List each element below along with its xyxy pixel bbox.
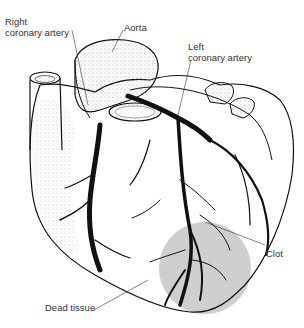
heart-diagram: Right coronary artery Aorta Left coronar… (0, 0, 304, 328)
heart-illustration (0, 0, 304, 328)
label-right-coronary-artery-line1: Right (5, 16, 69, 27)
label-left-coronary-artery: Left coronary artery (188, 41, 252, 63)
label-left-coronary-artery-line2: coronary artery (188, 52, 252, 63)
label-left-coronary-artery-line1: Left (188, 41, 252, 52)
label-clot: Clot (266, 248, 283, 259)
label-dead-tissue: Dead tissue (45, 302, 95, 313)
label-right-coronary-artery-line2: coronary artery (5, 27, 69, 38)
label-right-coronary-artery: Right coronary artery (5, 16, 69, 38)
dead-tissue-region (159, 222, 251, 314)
label-aorta: Aorta (124, 22, 147, 33)
